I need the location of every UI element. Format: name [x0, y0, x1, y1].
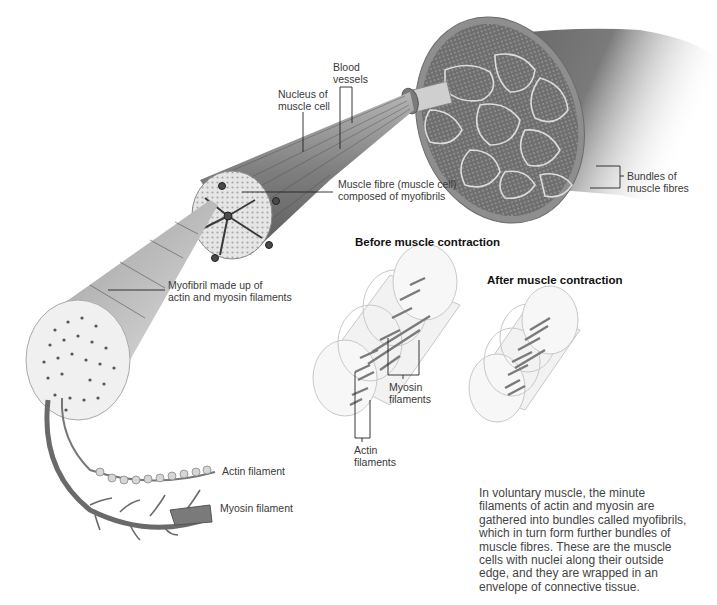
caption-line: muscle fibres. These are the muscle — [479, 541, 717, 554]
label-muscle-fibre: Muscle fibre (muscle cell) composed of m… — [338, 178, 456, 202]
myofibril — [26, 200, 218, 420]
caption-line: cells with nuclei along their outside — [479, 554, 717, 567]
label-line: Myofibril made up of — [168, 279, 292, 291]
caption-line: In voluntary muscle, the minute — [479, 487, 717, 500]
whole-muscle — [390, 0, 717, 245]
label-line: muscle fibres — [627, 182, 689, 194]
label-bundles: Bundles of muscle fibres — [627, 170, 689, 194]
label-line: filaments — [389, 393, 431, 405]
label-line: filaments — [354, 456, 396, 468]
caption-line: edge, and they are wrapped in an — [479, 567, 717, 580]
caption-line: envelope of connective tissue. — [479, 581, 717, 594]
label-actin-filaments: Actin filaments — [354, 444, 396, 468]
label-myofibril: Myofibril made up of actin and myosin fi… — [168, 279, 292, 303]
label-nucleus: Nucleus of muscle cell — [278, 88, 330, 112]
label-line: actin and myosin filaments — [168, 291, 292, 303]
before-contraction-diagram — [313, 244, 460, 416]
caption-line: filaments of actin and myosin are — [479, 500, 717, 513]
heading-before-contraction: Before muscle contraction — [355, 236, 500, 248]
label-line: Muscle fibre (muscle cell) — [338, 178, 456, 190]
label-myosin-filament: Myosin filament — [220, 502, 293, 514]
label-myosin-filaments: Myosin filaments — [389, 381, 431, 405]
label-line: vessels — [333, 73, 368, 85]
after-contraction-diagram — [469, 286, 580, 422]
label-line: muscle cell — [278, 100, 330, 112]
heading-after-contraction: After muscle contraction — [487, 274, 622, 286]
label-actin-filament: Actin filament — [222, 465, 285, 477]
label-line: Blood — [333, 61, 368, 73]
label-blood-vessels: Blood vessels — [333, 61, 368, 85]
label-line: Actin — [354, 444, 396, 456]
label-line: Myosin — [389, 381, 431, 393]
caption-paragraph: In voluntary muscle, the minute filament… — [479, 487, 717, 594]
caption-line: gathered into bundles called myofibrils, — [479, 514, 717, 527]
caption-line: which in turn form further bundles of — [479, 527, 717, 540]
label-line: Nucleus of — [278, 88, 330, 100]
label-line: Bundles of — [627, 170, 689, 182]
label-line: composed of myofibrils — [338, 190, 456, 202]
